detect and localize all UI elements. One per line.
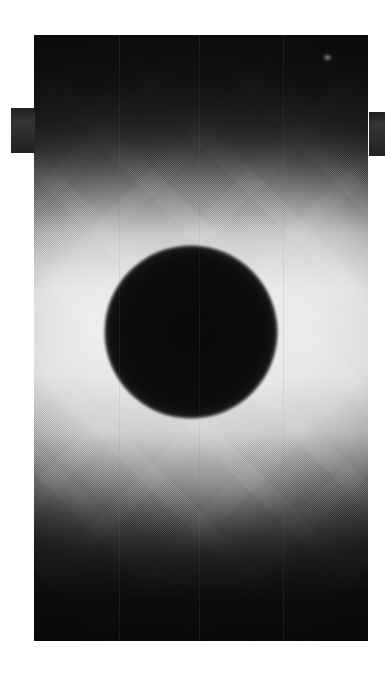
left-mount-tab	[11, 108, 35, 153]
right-mount-tab	[369, 112, 385, 156]
corner-vignette	[34, 35, 368, 641]
photographic-plate	[34, 35, 368, 641]
print-seam-line	[119, 35, 120, 641]
print-seam-line	[283, 35, 284, 641]
screenshot-canvas	[0, 0, 385, 682]
print-seam-line	[199, 35, 200, 641]
